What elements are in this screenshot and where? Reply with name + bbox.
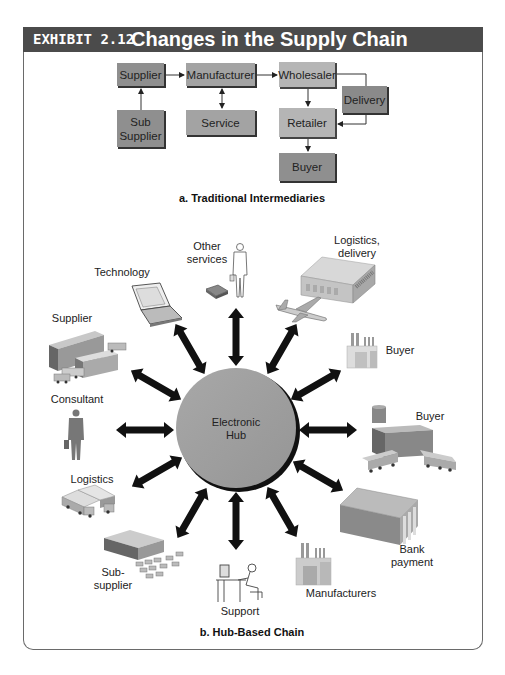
svg-text:payment: payment (391, 556, 433, 568)
buyer-right-node: Buyer (362, 405, 456, 473)
svg-text:Sub: Sub (130, 116, 150, 128)
svg-text:Supplier: Supplier (119, 69, 161, 81)
logistics-node: Logistics (62, 473, 115, 518)
hub-caption: b. Hub-Based Chain (200, 626, 305, 638)
svg-text:Retailer: Retailer (287, 117, 327, 129)
svg-text:Buyer: Buyer (292, 161, 322, 173)
arrow-manufacturers (261, 483, 304, 541)
svg-text:Buyer: Buyer (416, 410, 445, 422)
svg-text:Electronic: Electronic (212, 416, 261, 428)
arrow-bank (289, 455, 347, 498)
svg-text:Consultant: Consultant (51, 393, 104, 405)
svg-text:supplier: supplier (94, 579, 133, 591)
airplane-icon (276, 297, 327, 322)
box-sub-supplier: Sub Supplier (117, 110, 166, 149)
arrow-buyer-top (287, 364, 345, 407)
arrow-supplier (127, 364, 185, 407)
svg-text:Buyer: Buyer (386, 344, 415, 356)
consultant-person-icon (64, 410, 84, 461)
bank-building-icon (340, 488, 418, 545)
svg-text:delivery: delivery (338, 247, 376, 259)
box-delivery: Delivery (342, 86, 389, 115)
consultant-node: Consultant (51, 393, 104, 460)
svg-text:Logistics: Logistics (71, 473, 114, 485)
svg-text:Bank: Bank (399, 543, 425, 555)
trucks-icon (62, 485, 115, 518)
arrow-logistics-delivery (261, 320, 304, 378)
sub-supplier-node: Sub- supplier (94, 530, 183, 591)
svg-text:Other: Other (193, 240, 221, 252)
supplier-node: Supplier (49, 312, 126, 384)
technology-node: Technology (94, 266, 182, 327)
arrow-support (228, 492, 244, 550)
box-retailer: Retailer (279, 108, 337, 139)
box-manufacturer: Manufacturer (186, 63, 257, 88)
buyer-top-node: Buyer (347, 333, 415, 368)
diagram-canvas: Supplier Manufacturer Wholesaler Deliver… (0, 0, 505, 675)
box-buyer: Buyer (279, 153, 337, 183)
arrow-buyer-right (299, 422, 357, 438)
warehouse-icon (301, 257, 375, 303)
box-service: Service (186, 110, 257, 137)
svg-text:Delivery: Delivery (344, 94, 386, 106)
arrow-consultant (116, 422, 174, 438)
svg-text:Technology: Technology (94, 266, 150, 278)
arrow-logistics (128, 451, 186, 494)
electronic-hub: Electronic Hub (176, 368, 300, 492)
delivery-to-retailer-arrow (338, 114, 366, 124)
businessman-icon (230, 244, 247, 298)
svg-text:Manufacturers: Manufacturers (306, 587, 377, 599)
svg-text:Supplier: Supplier (52, 312, 93, 324)
traditional-chart: Supplier Manufacturer Wholesaler Deliver… (117, 62, 389, 204)
laptop-icon (132, 283, 182, 327)
svg-text:Logistics,: Logistics, (334, 234, 380, 246)
telephone-icon (206, 285, 228, 299)
svg-text:Supplier: Supplier (119, 130, 161, 142)
svg-text:Wholesaler: Wholesaler (278, 69, 336, 81)
support-node: Support (216, 564, 262, 617)
traditional-caption: a. Traditional Intermediaries (179, 192, 325, 204)
box-wholesaler: Wholesaler (278, 62, 337, 89)
arrow-sub-supplier (171, 484, 214, 542)
factory-icon (347, 333, 377, 368)
svg-text:Support: Support (221, 605, 260, 617)
manufacturers-factory-icon (296, 543, 331, 585)
arrow-other-services (228, 308, 244, 366)
supplier-warehouse-icon (49, 331, 126, 384)
svg-text:Hub: Hub (226, 429, 246, 441)
svg-text:Manufacturer: Manufacturer (187, 69, 255, 81)
bank-payment-node: Bank payment (340, 488, 433, 568)
svg-text:Sub-: Sub- (101, 566, 125, 578)
wholesaler-to-delivery-line (336, 74, 366, 86)
box-supplier: Supplier (117, 63, 166, 88)
hub-chart: Electronic Hub Other services Logistics,… (49, 234, 456, 638)
arrow-technology (169, 320, 212, 378)
svg-text:services: services (187, 253, 228, 265)
svg-text:Service: Service (201, 117, 239, 129)
support-desk-icon (216, 564, 262, 602)
logistics-delivery-node: Logistics, delivery (276, 234, 380, 322)
other-services-node: Other services (187, 240, 247, 299)
manufacturers-node: Manufacturers (296, 543, 377, 599)
